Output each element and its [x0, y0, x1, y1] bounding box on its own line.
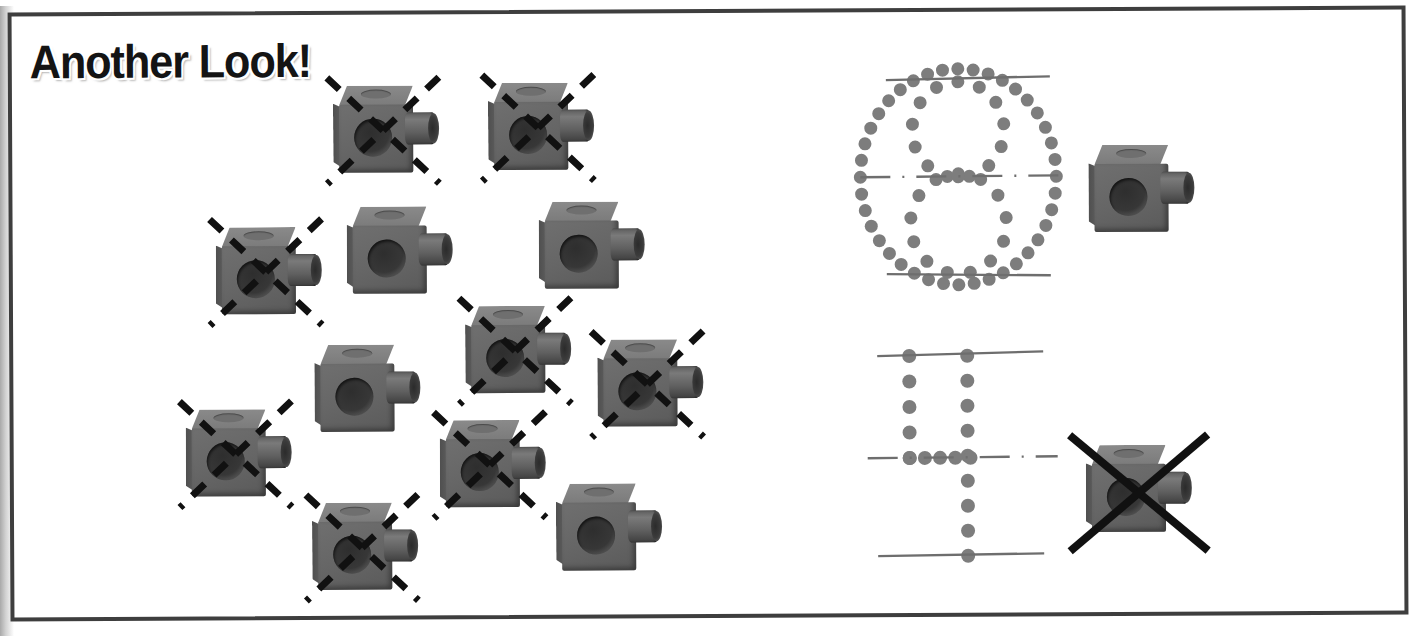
bottom-rule-line	[878, 553, 1044, 556]
outline-dot	[914, 96, 927, 109]
cube-peg	[386, 371, 416, 403]
outline-dot	[961, 474, 975, 488]
cube-front-face	[222, 246, 296, 314]
outline-dot	[984, 255, 997, 268]
cube-front-face	[192, 428, 266, 496]
outline-dot	[1000, 211, 1013, 224]
outline-dot	[1010, 257, 1023, 270]
cube-model-bottom	[1086, 445, 1190, 538]
outline-dot	[997, 117, 1010, 130]
cube-peg	[258, 436, 288, 468]
outline-dot	[930, 81, 943, 94]
cube-crossed-out	[216, 227, 320, 320]
outline-dot	[995, 140, 1008, 153]
outline-dot	[903, 425, 917, 439]
dotted-figure-four	[867, 337, 1068, 568]
cube-peg	[611, 228, 641, 260]
top-rule-line	[877, 351, 1043, 356]
outline-dot	[982, 159, 995, 172]
outline-dot	[991, 189, 1004, 202]
outline-dot	[930, 173, 943, 186]
outline-dot	[960, 399, 974, 413]
outline-dot	[855, 188, 868, 201]
cube-top-face	[446, 420, 520, 440]
outline-dot	[973, 81, 986, 94]
cube-peg	[384, 529, 414, 561]
cube-top-face	[603, 339, 677, 359]
outline-dot	[1031, 106, 1044, 119]
cube-top-face	[494, 83, 568, 103]
outline-dot	[883, 247, 896, 260]
outline-dot	[996, 74, 1009, 87]
outline-dot	[1009, 83, 1022, 96]
cube-front-face	[320, 364, 394, 432]
cube-top-face	[1094, 145, 1168, 165]
cube-front-face	[1092, 464, 1166, 532]
outline-dot	[872, 107, 885, 120]
outline-dot	[963, 451, 977, 465]
cube-peg	[560, 110, 590, 142]
outline-dot	[921, 159, 934, 172]
cube-front-face	[471, 325, 545, 393]
cube-front-face	[353, 225, 427, 293]
cube-top-face	[191, 409, 265, 429]
outline-dot	[1049, 153, 1062, 166]
cube-crossed-out	[597, 339, 701, 432]
cube-top-face	[222, 227, 296, 247]
outline-dot	[904, 211, 917, 224]
cube-peg	[1158, 472, 1188, 504]
cube-top-face	[1092, 445, 1166, 465]
cube-front-face	[339, 104, 413, 172]
dotted-figure-eight	[834, 33, 1085, 314]
cube-top-face	[320, 345, 394, 365]
outline-dot	[961, 499, 975, 513]
outline-dot	[989, 96, 1002, 109]
outline-dot	[1039, 121, 1052, 134]
outline-dot	[909, 140, 922, 153]
outline-dot	[1049, 187, 1062, 200]
outline-dot	[997, 266, 1010, 279]
cube-peg	[537, 333, 567, 365]
outline-dot	[961, 424, 975, 438]
cube-remaining	[538, 201, 642, 294]
outline-dot	[952, 170, 965, 183]
outline-dot	[902, 374, 916, 388]
outline-dot	[865, 220, 878, 233]
outline-dot	[936, 64, 949, 77]
cube-front-face	[545, 220, 619, 288]
cube-front-face	[1094, 164, 1168, 232]
outline-dot	[974, 173, 987, 186]
cube-remaining	[556, 483, 660, 576]
outline-dot	[903, 451, 917, 465]
outline-dot	[1039, 219, 1052, 232]
outline-dot	[968, 277, 981, 290]
outline-dot	[960, 374, 974, 388]
cube-peg	[419, 233, 449, 265]
cube-crossed-out	[185, 409, 289, 502]
cube-top-face	[352, 206, 426, 226]
outline-dot	[1021, 246, 1034, 259]
cube-crossed-out	[465, 306, 569, 399]
outline-dot	[1021, 94, 1034, 107]
outline-dot	[1045, 136, 1058, 149]
cube-peg	[1160, 172, 1190, 204]
outline-dot	[873, 234, 886, 247]
outline-dot	[941, 266, 954, 279]
outline-dot	[882, 94, 895, 107]
cube-peg	[405, 112, 435, 144]
outline-dot	[1031, 233, 1044, 246]
cube-crossed-out	[333, 85, 437, 178]
cube-top-face	[339, 85, 413, 105]
outline-dot	[906, 118, 919, 131]
cube-top-face	[318, 503, 392, 523]
cube-top-face	[471, 306, 545, 326]
outline-dot	[952, 278, 965, 291]
outline-dot	[961, 524, 975, 538]
cube-top-face	[562, 483, 636, 503]
outline-dot	[937, 277, 950, 290]
cube-front-face	[318, 522, 392, 590]
outline-dot	[960, 349, 974, 363]
cube-crossed-out	[488, 83, 592, 176]
outline-dot	[967, 63, 980, 76]
outline-dot	[964, 266, 977, 279]
